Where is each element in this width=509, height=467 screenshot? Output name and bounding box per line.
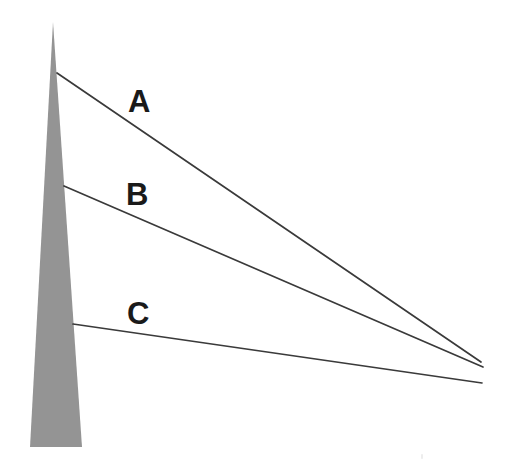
sight-line-label-c: C (127, 298, 149, 329)
sight-line-label-b: B (126, 179, 148, 210)
diagram-canvas: A B C (0, 0, 509, 467)
sight-lines-svg (0, 0, 509, 467)
sight-line-label-a: A (128, 86, 150, 117)
scan-artifact-speck (421, 454, 423, 459)
